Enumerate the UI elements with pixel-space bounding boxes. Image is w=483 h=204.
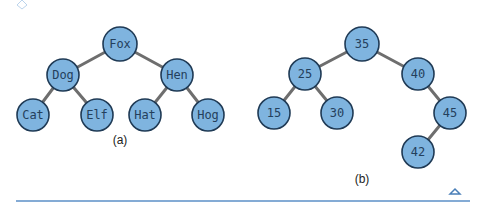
node-label: 30 <box>330 106 344 120</box>
triangle-up-icon[interactable] <box>450 189 460 194</box>
diamond-marker-icon <box>17 0 27 9</box>
node-label: 45 <box>443 106 457 120</box>
node-label: Fox <box>109 37 131 51</box>
node-label: 42 <box>411 145 425 159</box>
tree-node-n25: 25 <box>289 58 321 90</box>
tree-node-elf: Elf <box>81 99 113 131</box>
node-label: Hat <box>134 108 156 122</box>
caption-a: (a) <box>113 133 128 147</box>
tree-figure: FoxDogHenCatElfHatHog35254015304542 (a) … <box>0 0 483 204</box>
node-label: 35 <box>355 37 369 51</box>
node-label: Dog <box>52 68 74 82</box>
tree-node-n35: 35 <box>345 27 379 61</box>
tree-node-fox: Fox <box>103 27 137 61</box>
caption-b: (b) <box>355 172 370 186</box>
node-label: Hen <box>166 68 188 82</box>
tree-node-n40: 40 <box>402 58 434 90</box>
tree-node-hen: Hen <box>161 59 193 91</box>
tree-node-n15: 15 <box>258 97 290 129</box>
node-label: Cat <box>22 108 44 122</box>
tree-node-hat: Hat <box>129 99 161 131</box>
tree-node-n42: 42 <box>402 136 434 168</box>
tree-node-cat: Cat <box>17 99 49 131</box>
tree-node-n30: 30 <box>321 97 353 129</box>
node-label: Elf <box>86 108 108 122</box>
node-label: 15 <box>267 106 281 120</box>
node-label: 25 <box>298 67 312 81</box>
node-label: 40 <box>411 67 425 81</box>
tree-node-n45: 45 <box>434 97 466 129</box>
tree-node-hog: Hog <box>192 99 224 131</box>
tree-node-dog: Dog <box>47 59 79 91</box>
node-label: Hog <box>197 108 219 122</box>
